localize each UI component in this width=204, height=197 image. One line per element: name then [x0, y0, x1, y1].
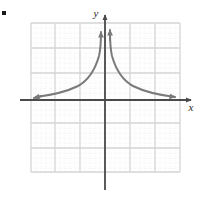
y-axis-label: y: [93, 7, 99, 19]
corner-dot-mark: [2, 11, 6, 15]
graph-figure: x y: [0, 0, 204, 197]
plot-svg: x y: [0, 0, 204, 197]
x-axis-label: x: [188, 101, 194, 113]
